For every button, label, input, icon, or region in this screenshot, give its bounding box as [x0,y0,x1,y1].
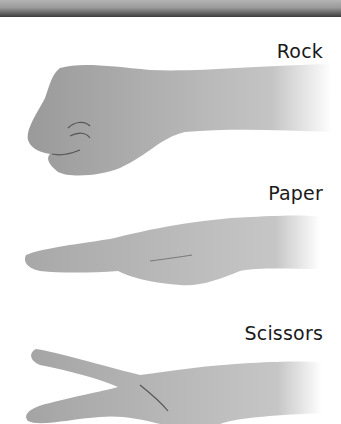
gesture-label-rock: Rock [277,40,323,62]
gesture-label-paper: Paper [268,182,323,204]
flat-hand-icon [0,205,341,295]
top-bar [0,0,341,17]
v-sign-hand-icon [0,345,341,424]
fist-hand-icon [0,62,341,182]
gesture-label-scissors: Scissors [244,322,323,344]
